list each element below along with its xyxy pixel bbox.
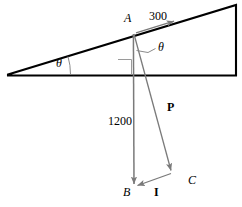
label-theta-incline: θ bbox=[56, 57, 62, 69]
diagram-canvas bbox=[0, 0, 242, 207]
vector-p bbox=[134, 34, 171, 171]
label-point-a: A bbox=[124, 12, 131, 24]
label-theta-at-a: θ bbox=[158, 41, 164, 53]
label-force-1200: 1200 bbox=[108, 115, 132, 127]
incline-triangle bbox=[8, 5, 236, 76]
vector-i bbox=[138, 174, 172, 186]
label-force-300: 300 bbox=[149, 10, 167, 22]
triangle-outline bbox=[8, 5, 236, 76]
label-vector-p: P bbox=[167, 101, 174, 113]
right-angle-marker bbox=[118, 60, 132, 75]
label-vector-i: I bbox=[154, 186, 159, 198]
label-point-c: C bbox=[188, 174, 196, 186]
label-point-b: B bbox=[123, 186, 130, 198]
force-1200-vector bbox=[133, 34, 134, 184]
theta-incline-arc bbox=[68, 57, 71, 75]
force-diagram: A 300 θ θ 1200 P B C I bbox=[0, 0, 242, 207]
